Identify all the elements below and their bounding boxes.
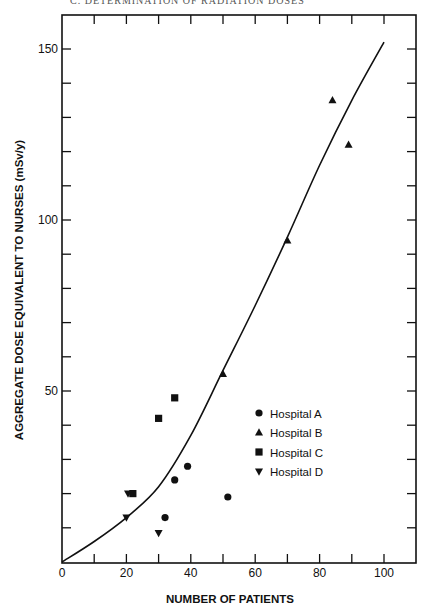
- x-tick-label: 20: [120, 566, 134, 580]
- series-hospital-c: [129, 394, 178, 497]
- data-point-square-icon: [171, 394, 178, 401]
- data-point-circle-icon: [171, 476, 178, 483]
- y-tick-label: 50: [45, 384, 59, 398]
- data-point-triangle-up-icon: [345, 141, 353, 148]
- scatter-chart: 02040608010050100150 Hospital AHospital …: [0, 0, 426, 609]
- legend-label: Hospital A: [270, 408, 322, 420]
- legend-circle-icon: [255, 409, 262, 416]
- y-tick-label: 100: [38, 213, 58, 227]
- y-axis-title: AGGREGATE DOSE EQUIVALENT TO NURSES (mSv…: [13, 140, 25, 440]
- legend: Hospital AHospital BHospital CHospital D: [255, 408, 323, 479]
- x-tick-label: 60: [249, 566, 263, 580]
- y-tick-label: 150: [38, 42, 58, 56]
- x-axis-title: NUMBER OF PATIENTS: [166, 593, 294, 605]
- legend-label: Hospital D: [270, 466, 323, 478]
- legend-label: Hospital B: [270, 427, 323, 439]
- legend-square-icon: [255, 448, 262, 455]
- legend-triangle-down-icon: [255, 469, 263, 476]
- series-hospital-a: [161, 463, 231, 522]
- legend-triangle-up-icon: [255, 428, 263, 435]
- data-point-triangle-up-icon: [283, 236, 291, 243]
- data-point-triangle-down-icon: [155, 530, 163, 537]
- legend-item: Hospital D: [255, 466, 323, 478]
- x-tick-label: 40: [184, 566, 198, 580]
- data-point-triangle-up-icon: [328, 96, 336, 103]
- legend-item: Hospital C: [255, 447, 323, 459]
- plot-frame: [62, 15, 416, 563]
- x-tick-label: 0: [59, 566, 66, 580]
- legend-label: Hospital C: [270, 447, 323, 459]
- data-point-circle-icon: [224, 493, 231, 500]
- plot-border: [62, 15, 416, 563]
- axis-ticks: [62, 15, 416, 563]
- data-point-square-icon: [155, 415, 162, 422]
- data-point-triangle-up-icon: [219, 370, 227, 377]
- legend-item: Hospital A: [255, 408, 322, 420]
- fit-curve: [62, 42, 384, 562]
- x-tick-label: 80: [313, 566, 327, 580]
- series-hospital-d: [122, 491, 162, 538]
- fit-curve-line: [62, 42, 384, 562]
- x-tick-label: 100: [374, 566, 394, 580]
- legend-item: Hospital B: [255, 427, 323, 439]
- data-point-circle-icon: [161, 514, 168, 521]
- data-point-circle-icon: [184, 463, 191, 470]
